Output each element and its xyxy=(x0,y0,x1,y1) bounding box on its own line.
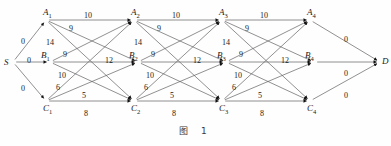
edge-weight-label: 12 xyxy=(281,57,289,65)
edge-weight-label: 14 xyxy=(134,39,142,47)
edge-weight-label: 9 xyxy=(245,25,249,33)
graph-edge xyxy=(49,63,135,99)
edge-weight-label: 0 xyxy=(21,38,25,46)
edge-weight-label: 8 xyxy=(260,110,264,118)
edge-weight-label: 5 xyxy=(258,92,262,100)
graph-node-b1[interactable]: B1 xyxy=(41,51,50,62)
graph-edge xyxy=(137,63,223,99)
edge-weight-label: 5 xyxy=(82,92,86,100)
edge-weight-label: 9 xyxy=(69,25,73,33)
graph-node-b3[interactable]: B3 xyxy=(217,51,226,62)
graph-edge xyxy=(15,64,44,98)
graph-node-b2[interactable]: B2 xyxy=(129,51,138,62)
edge-weight-label: 9 xyxy=(157,25,161,33)
graph-node-a4[interactable]: A4 xyxy=(307,8,316,19)
graph-node-c2[interactable]: C2 xyxy=(131,104,140,115)
figure-canvas: SA1B1C1A2B2C2A3B3C3A4B4C4D 0001091491210… xyxy=(0,0,391,146)
edge-weight-label: 12 xyxy=(193,57,201,65)
graph-node-a3[interactable]: A3 xyxy=(219,8,228,19)
edge-weight-label: 8 xyxy=(84,110,88,118)
graph-node-s[interactable]: S xyxy=(4,58,9,67)
graph-node-a1[interactable]: A1 xyxy=(43,8,52,19)
figure-caption: 图 1 xyxy=(0,124,391,137)
edge-weight-label: 0 xyxy=(27,57,31,65)
edge-weight-label: 10 xyxy=(234,72,242,80)
edge-weight-label: 10 xyxy=(172,12,180,20)
edge-weight-label: 12 xyxy=(105,57,113,65)
edge-weight-label: 10 xyxy=(84,12,92,20)
graph-node-b4[interactable]: B4 xyxy=(305,51,314,62)
graph-node-c1[interactable]: C1 xyxy=(43,104,52,115)
edge-weight-label: 0 xyxy=(21,85,25,93)
graph-node-c3[interactable]: C3 xyxy=(219,104,228,115)
edge-weight-label: 5 xyxy=(170,92,174,100)
edge-weight-label: 9 xyxy=(239,51,243,59)
edge-weight-label: 10 xyxy=(58,72,66,80)
graph-node-d[interactable]: D xyxy=(382,57,389,66)
edge-weight-label: 14 xyxy=(46,39,54,47)
edge-weight-label: 0 xyxy=(344,70,348,78)
edge-weight-label: 6 xyxy=(232,84,236,92)
edge-weight-label: 14 xyxy=(222,39,230,47)
edge-weight-label: 10 xyxy=(146,72,154,80)
edge-weight-label: 0 xyxy=(344,36,348,44)
graph-node-a2[interactable]: A2 xyxy=(131,8,140,19)
edge-weight-label: 9 xyxy=(63,51,67,59)
edge-weight-label: 6 xyxy=(56,84,60,92)
edge-weight-label: 0 xyxy=(344,92,348,100)
graph-edge xyxy=(225,63,311,99)
edge-weight-label: 8 xyxy=(172,110,176,118)
edge-weight-label: 6 xyxy=(144,84,148,92)
edge-weight-label: 10 xyxy=(260,12,268,20)
graph-edge xyxy=(15,23,44,60)
graph-node-c4[interactable]: C4 xyxy=(307,104,316,115)
edge-weight-label: 9 xyxy=(151,51,155,59)
